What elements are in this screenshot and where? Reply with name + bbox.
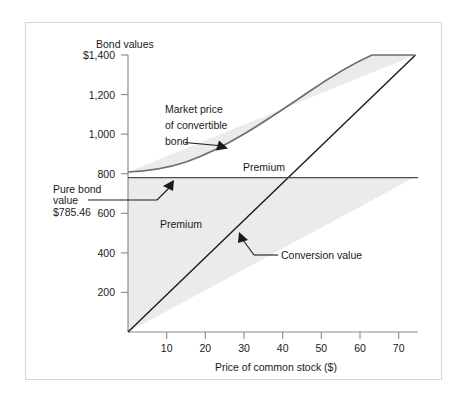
y-axis-ticks xyxy=(121,55,128,292)
x-tick-label-50: 50 xyxy=(306,342,336,355)
x-tick-label-20: 20 xyxy=(190,342,220,355)
x-tick-label-40: 40 xyxy=(268,342,298,355)
x-tick-label-70: 70 xyxy=(384,342,414,355)
x-tick-label-60: 60 xyxy=(345,342,375,355)
figure-container: Bond values $1,400 1,200 1,000 800 600 4… xyxy=(0,0,464,402)
y-tick-label-1200: 1,200 xyxy=(63,89,115,102)
y-tick-label-1400: $1,400 xyxy=(63,49,115,62)
market-price-annotation-line2: of convertible xyxy=(165,119,227,132)
lower-premium-label: Premium xyxy=(160,218,202,231)
upper-premium-label: Premium xyxy=(243,161,285,174)
y-tick-label-400: 400 xyxy=(63,247,115,260)
conversion-value-annotation: Conversion value xyxy=(281,249,362,262)
pure-bond-value-annotation-line2: value xyxy=(53,194,78,207)
x-tick-label-10: 10 xyxy=(152,342,182,355)
market-price-annotation-line1: Market price xyxy=(165,103,223,116)
y-tick-label-1000: 1,000 xyxy=(63,128,115,141)
x-axis-ticks xyxy=(167,332,399,339)
x-tick-label-30: 30 xyxy=(229,342,259,355)
y-tick-label-800: 800 xyxy=(63,168,115,181)
x-axis-title: Price of common stock ($) xyxy=(215,361,337,374)
pure-bond-value-annotation-line3: $785.46 xyxy=(53,206,91,219)
y-tick-label-200: 200 xyxy=(63,286,115,299)
market-price-annotation-line3: bond xyxy=(165,135,188,148)
